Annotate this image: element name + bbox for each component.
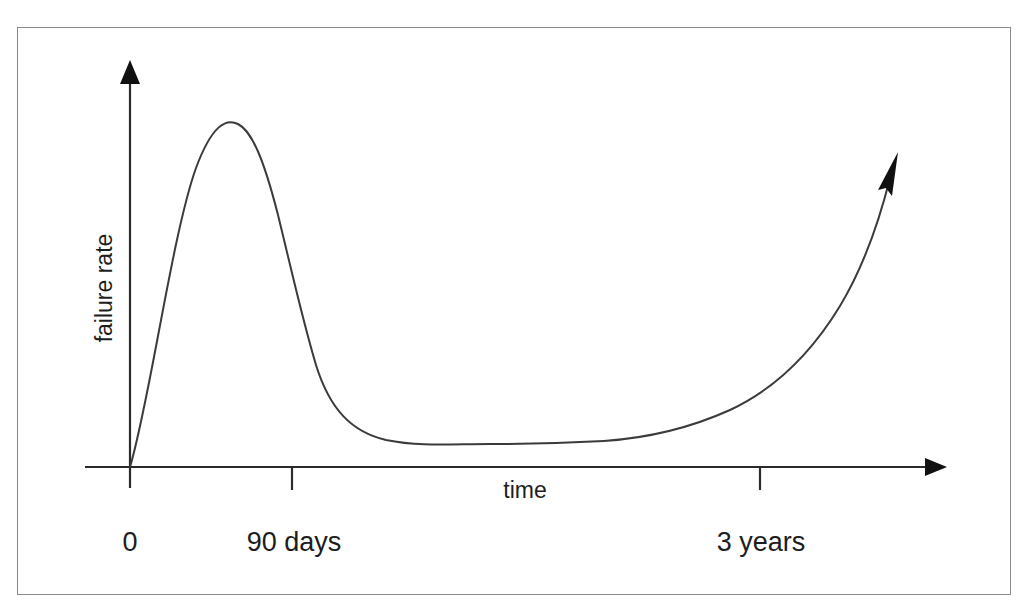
- tick-label-origin: 0: [122, 527, 137, 557]
- tick-label-3-years: 3 years: [717, 527, 806, 557]
- bathtub-curve-chart: failure rate time 0 90 days 3 years: [0, 0, 1031, 613]
- arrow-right-icon: [925, 458, 947, 476]
- tick-label-90-days: 90 days: [247, 527, 342, 557]
- x-axis-label: time: [503, 477, 546, 503]
- figure-root: failure rate time 0 90 days 3 years: [0, 0, 1031, 613]
- arrow-up-icon: [120, 60, 140, 84]
- failure-rate-curve: [130, 122, 890, 467]
- arrow-up-right-icon: [878, 152, 898, 196]
- y-axis-label: failure rate: [91, 234, 117, 343]
